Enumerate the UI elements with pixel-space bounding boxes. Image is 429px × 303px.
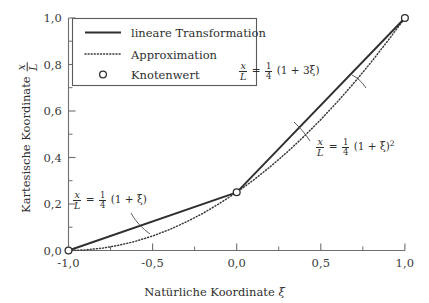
annotation-right-denominator: L bbox=[239, 72, 247, 82]
annotation-left-denominator: L bbox=[73, 201, 81, 211]
annotation-left-segment: x L = 1 4 (1 + ξ) bbox=[72, 190, 147, 211]
annotation-approx-frac-den: 4 bbox=[342, 148, 349, 157]
annotation-right-fraction-quarter: 1 4 bbox=[265, 62, 272, 80]
legend-item-lineare-transformation: lineare Transformation bbox=[131, 26, 266, 40]
annotation-approx-fraction-quarter: 1 4 bbox=[342, 138, 349, 156]
y-tick-label: 1,0 bbox=[36, 11, 62, 25]
y-axis-title: Kartesische Koordinate x L bbox=[16, 42, 39, 232]
leader-line-right-segment bbox=[352, 75, 366, 88]
annotation-left-equals: = bbox=[86, 193, 95, 205]
annotation-left-frac-den: 4 bbox=[99, 201, 106, 210]
annotation-right-segment: x L = 1 4 (1 + 3ξ) bbox=[238, 61, 320, 82]
annotation-approx-denominator: L bbox=[316, 148, 324, 158]
y-axis-fraction: x L bbox=[16, 63, 39, 72]
node-marker bbox=[65, 247, 72, 254]
node-marker bbox=[402, 15, 409, 22]
annotation-left-expression: (1 + ξ) bbox=[111, 193, 147, 205]
node-marker bbox=[233, 189, 240, 196]
y-axis-fraction-denominator: L bbox=[28, 63, 39, 72]
legend-item-approximation: Approximation bbox=[131, 48, 217, 62]
y-tick-label: 0,4 bbox=[36, 151, 62, 165]
legend-item-knotenwert: Knotenwert bbox=[131, 68, 200, 82]
y-axis-title-text: Kartesische Koordinate bbox=[19, 76, 33, 213]
annotation-left-fraction-xl: x L bbox=[73, 190, 81, 211]
y-tick-label: 0,0 bbox=[36, 244, 62, 258]
x-tick-label: 0,5 bbox=[312, 256, 331, 270]
x-axis-major-ticks bbox=[69, 244, 405, 251]
x-axis-symbol: ξ bbox=[278, 285, 284, 299]
annotation-right-expression: (1 + 3ξ) bbox=[277, 64, 320, 76]
x-axis-title: Natürliche Koordinate ξ bbox=[0, 285, 429, 299]
y-axis-fraction-numerator: x bbox=[16, 63, 28, 72]
x-tick-label: 0,0 bbox=[227, 256, 246, 270]
y-tick-label: 0,2 bbox=[36, 197, 62, 211]
annotation-approx-equals: = bbox=[329, 140, 338, 152]
chart-page: -1,0 -0,5 0,0 0,5 1,0 0,0 0,2 0,4 0,6 0,… bbox=[0, 0, 429, 303]
x-tick-label: 1,0 bbox=[396, 256, 415, 270]
annotation-right-frac-den: 4 bbox=[265, 72, 272, 81]
annotation-approximation: x L = 1 4 (1 + ξ)2 bbox=[315, 137, 395, 158]
x-axis-title-text: Natürliche Koordinate bbox=[144, 285, 274, 299]
annotation-approx-expression: (1 + ξ) bbox=[354, 140, 390, 152]
annotation-approx-fraction-xl: x L bbox=[316, 137, 324, 158]
x-tick-label: -1,0 bbox=[57, 256, 80, 270]
x-tick-label: -0,5 bbox=[141, 256, 164, 270]
annotation-approx-exponent: 2 bbox=[390, 139, 395, 148]
y-tick-label: 0,6 bbox=[36, 104, 62, 118]
annotation-right-equals: = bbox=[252, 64, 261, 76]
y-tick-label: 0,8 bbox=[36, 58, 62, 72]
annotation-right-fraction-xl: x L bbox=[239, 61, 247, 82]
legend-swatch-circle bbox=[100, 71, 107, 78]
annotation-left-fraction-quarter: 1 4 bbox=[99, 191, 106, 209]
